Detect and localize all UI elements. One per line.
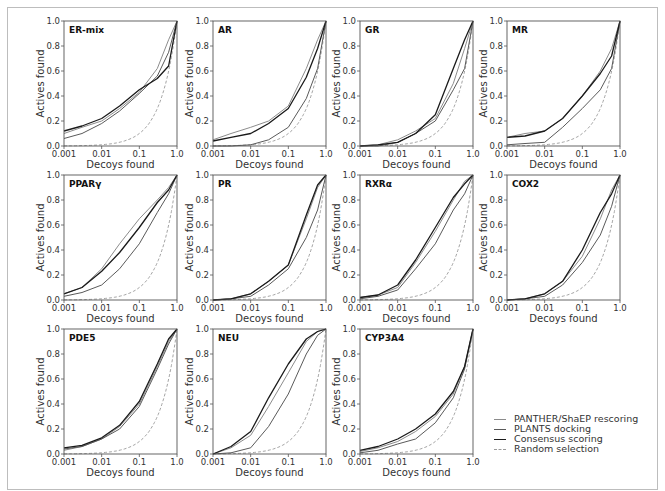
- consensus-scoring-line: [213, 329, 326, 454]
- x-tick-label: 0.1: [133, 303, 147, 313]
- x-tick-label: 0.001: [348, 149, 372, 159]
- panel-er-mix: 0.00.20.40.60.81.00.0010.010.11.0Decoys …: [35, 16, 184, 170]
- y-tick-label: 0.4: [46, 91, 60, 101]
- panel-rxr-: 0.00.20.40.60.81.00.0010.010.11.0Decoys …: [331, 170, 480, 324]
- y-tick-label: 0.2: [46, 424, 60, 434]
- x-tick-label: 0.1: [429, 457, 443, 467]
- x-tick-label: 0.01: [535, 303, 554, 313]
- x-tick-label: 1.0: [170, 457, 184, 467]
- panel-ppar-: 0.00.20.40.60.81.00.0010.010.11.0Decoys …: [35, 170, 184, 324]
- random-selection-line: [64, 175, 177, 300]
- panther-shaep-rescoring-line: [64, 329, 177, 450]
- y-tick-label: 1.0: [46, 170, 60, 180]
- x-tick-label: 0.01: [241, 303, 260, 313]
- plants-docking-line: [213, 329, 326, 454]
- legend: PANTHER/ShaEP rescoring PLANTS docking C…: [494, 414, 638, 454]
- plants-docking-line: [360, 329, 473, 453]
- y-axis-label: Actives found: [184, 204, 195, 272]
- x-tick-label: 0.001: [348, 303, 372, 313]
- y-tick-label: 1.0: [46, 324, 60, 334]
- y-tick-label: 0.2: [342, 116, 356, 126]
- y-tick-label: 0.2: [195, 424, 209, 434]
- consensus-scoring-line: [64, 21, 177, 131]
- y-tick-label: 0.6: [195, 66, 209, 76]
- x-axis-label: Decoys found: [382, 313, 450, 324]
- plants-docking-line: [360, 21, 473, 146]
- y-tick-label: 1.0: [46, 16, 60, 26]
- y-tick-label: 1.0: [195, 16, 209, 26]
- panther-line-icon: [494, 419, 506, 420]
- y-tick-label: 0.4: [195, 245, 209, 255]
- plot-area: [64, 329, 177, 454]
- y-tick-label: 1.0: [342, 16, 356, 26]
- panel-cyp3a4: 0.00.20.40.60.81.00.0010.010.11.0Decoys …: [331, 324, 480, 478]
- panel-title: AR: [218, 25, 232, 35]
- panel-neu: 0.00.20.40.60.81.00.0010.010.11.0Decoys …: [184, 324, 333, 478]
- x-axis-label: Decoys found: [529, 159, 597, 170]
- y-axis-label: Actives found: [35, 204, 46, 272]
- panel-title: PDE5: [69, 333, 95, 343]
- y-axis-label: Actives found: [478, 50, 489, 118]
- plot-area: [213, 21, 326, 146]
- x-axis-label: Decoys found: [235, 313, 303, 324]
- x-tick-label: 0.01: [241, 149, 260, 159]
- y-tick-label: 0.8: [489, 41, 503, 51]
- consensus-scoring-line: [507, 175, 620, 300]
- legend-label: Random selection: [514, 444, 599, 454]
- x-tick-label: 0.1: [282, 303, 296, 313]
- y-tick-label: 0.6: [46, 220, 60, 230]
- y-tick-label: 1.0: [195, 170, 209, 180]
- y-tick-label: 0.4: [195, 91, 209, 101]
- x-tick-label: 1.0: [319, 149, 333, 159]
- x-axis-label: Decoys found: [235, 467, 303, 478]
- y-tick-label: 0.4: [342, 399, 356, 409]
- x-tick-label: 0.1: [282, 457, 296, 467]
- y-tick-label: 0.6: [342, 66, 356, 76]
- legend-item-random: Random selection: [494, 444, 638, 454]
- y-tick-label: 0.8: [489, 195, 503, 205]
- panel-ar: 0.00.20.40.60.81.00.0010.010.11.0Decoys …: [184, 16, 333, 170]
- y-tick-label: 0.2: [46, 116, 60, 126]
- x-tick-label: 0.1: [133, 149, 147, 159]
- x-axis-label: Decoys found: [529, 313, 597, 324]
- y-axis-label: Actives found: [331, 50, 342, 118]
- y-tick-label: 0.4: [195, 399, 209, 409]
- x-tick-label: 0.01: [92, 457, 111, 467]
- y-axis-label: Actives found: [478, 204, 489, 272]
- plot-area: [507, 21, 620, 146]
- panel-gr: 0.00.20.40.60.81.00.0010.010.11.0Decoys …: [331, 16, 480, 170]
- random-selection-line: [213, 21, 326, 146]
- y-tick-label: 0.6: [489, 220, 503, 230]
- y-tick-label: 0.4: [489, 245, 503, 255]
- x-tick-label: 0.01: [241, 457, 260, 467]
- consensus-scoring-line: [360, 175, 473, 298]
- y-tick-label: 1.0: [342, 324, 356, 334]
- x-tick-label: 1.0: [613, 149, 627, 159]
- y-tick-label: 1.0: [195, 324, 209, 334]
- x-tick-label: 1.0: [466, 457, 480, 467]
- y-tick-label: 0.8: [342, 349, 356, 359]
- x-tick-label: 0.01: [388, 149, 407, 159]
- consensus-scoring-line: [64, 175, 177, 294]
- plants-docking-line: [507, 21, 620, 145]
- y-axis-label: Actives found: [184, 50, 195, 118]
- x-tick-label: 1.0: [466, 303, 480, 313]
- y-axis-label: Actives found: [331, 204, 342, 272]
- random-selection-line: [360, 21, 473, 146]
- y-tick-label: 1.0: [489, 170, 503, 180]
- y-axis-label: Actives found: [331, 358, 342, 426]
- panel-title: GR: [365, 25, 379, 35]
- y-tick-label: 0.8: [46, 41, 60, 51]
- plot-area: [213, 329, 326, 454]
- y-tick-label: 0.8: [342, 41, 356, 51]
- y-tick-label: 0.6: [195, 374, 209, 384]
- panther-shaep-rescoring-line: [64, 175, 177, 294]
- y-tick-label: 0.2: [195, 270, 209, 280]
- random-selection-line: [507, 21, 620, 146]
- x-axis-label: Decoys found: [86, 467, 154, 478]
- panel-title: COX2: [512, 179, 539, 189]
- plot-area: [360, 21, 473, 146]
- x-tick-label: 1.0: [319, 303, 333, 313]
- panel-title: NEU: [218, 333, 239, 343]
- y-tick-label: 0.4: [342, 91, 356, 101]
